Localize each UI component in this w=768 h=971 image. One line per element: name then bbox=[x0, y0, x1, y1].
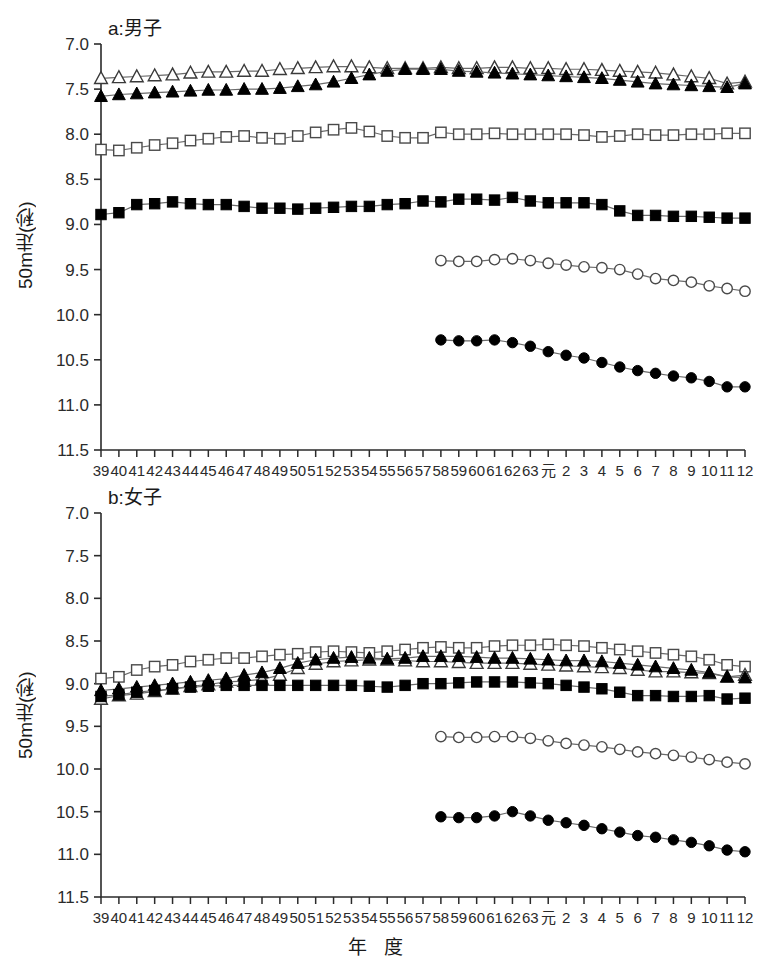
marker-square-open bbox=[650, 648, 660, 658]
marker-circle-filled bbox=[507, 806, 517, 816]
marker-square-filled bbox=[668, 691, 678, 701]
marker-square-open bbox=[203, 655, 213, 665]
marker-triangle-filled bbox=[578, 654, 591, 666]
marker-square-filled bbox=[328, 202, 338, 212]
marker-square-open bbox=[436, 127, 446, 137]
x-tick-label: 40 bbox=[111, 909, 128, 926]
marker-square-filled bbox=[310, 203, 320, 213]
marker-square-open bbox=[400, 133, 410, 143]
marker-square-filled bbox=[185, 682, 195, 692]
y-tick-label: 8.5 bbox=[65, 632, 89, 651]
marker-square-open bbox=[96, 673, 106, 683]
marker-square-filled bbox=[632, 690, 642, 700]
x-tick-label: 59 bbox=[450, 909, 467, 926]
marker-square-filled bbox=[239, 201, 249, 211]
marker-circle-filled bbox=[489, 335, 499, 345]
marker-circle-open bbox=[686, 277, 696, 287]
marker-circle-filled bbox=[454, 812, 464, 822]
x-tick-label: 5 bbox=[616, 909, 624, 926]
marker-circle-filled bbox=[722, 382, 732, 392]
x-tick-label: 2 bbox=[562, 909, 570, 926]
marker-circle-open bbox=[686, 752, 696, 762]
marker-circle-open bbox=[436, 255, 446, 265]
marker-circle-filled bbox=[489, 811, 499, 821]
marker-square-filled bbox=[704, 212, 714, 222]
marker-circle-filled bbox=[471, 336, 481, 346]
marker-circle-open bbox=[650, 748, 660, 758]
marker-circle-filled bbox=[454, 336, 464, 346]
marker-square-filled bbox=[436, 197, 446, 207]
marker-circle-open bbox=[579, 740, 589, 750]
marker-square-filled bbox=[328, 680, 338, 690]
series-line bbox=[441, 737, 745, 764]
marker-square-filled bbox=[96, 691, 106, 701]
marker-circle-open bbox=[454, 256, 464, 266]
marker-square-open bbox=[257, 133, 267, 143]
y-tick-label: 8.0 bbox=[65, 125, 89, 144]
marker-square-filled bbox=[579, 682, 589, 692]
marker-square-open bbox=[203, 134, 213, 144]
marker-circle-open bbox=[615, 744, 625, 754]
marker-square-open bbox=[132, 143, 142, 153]
marker-circle-filled bbox=[668, 371, 678, 381]
marker-circle-open bbox=[722, 283, 732, 293]
marker-square-filled bbox=[632, 210, 642, 220]
marker-circle-filled bbox=[561, 350, 571, 360]
marker-square-filled bbox=[436, 678, 446, 688]
marker-square-open bbox=[364, 126, 374, 136]
marker-circle-open bbox=[454, 732, 464, 742]
marker-triangle-filled bbox=[238, 83, 251, 95]
marker-square-filled bbox=[615, 687, 625, 697]
marker-circle-filled bbox=[686, 837, 696, 847]
marker-square-filled bbox=[185, 198, 195, 208]
x-tick-label: 10 bbox=[701, 909, 718, 926]
x-tick-label: 61 bbox=[486, 909, 503, 926]
marker-circle-open bbox=[489, 254, 499, 264]
x-tick-label: 48 bbox=[254, 909, 271, 926]
marker-circle-open bbox=[561, 260, 571, 270]
marker-square-open bbox=[632, 646, 642, 656]
y-axis-ticks: 7.07.58.08.59.09.510.010.511.011.5 bbox=[56, 504, 101, 907]
x-tick-label: 57 bbox=[415, 909, 432, 926]
marker-square-open bbox=[668, 649, 678, 659]
marker-square-open bbox=[167, 138, 177, 148]
marker-square-filled bbox=[543, 678, 553, 688]
marker-circle-filled bbox=[525, 341, 535, 351]
marker-square-open bbox=[418, 133, 428, 143]
y-tick-label: 9.5 bbox=[65, 261, 89, 280]
marker-square-open bbox=[597, 132, 607, 142]
panel-b-plot: 7.07.58.08.59.09.510.010.511.011.5394041… bbox=[0, 469, 768, 939]
marker-circle-filled bbox=[579, 820, 589, 830]
marker-circle-filled bbox=[722, 845, 732, 855]
marker-circle-open bbox=[471, 732, 481, 742]
marker-square-open bbox=[579, 641, 589, 651]
marker-circle-filled bbox=[615, 827, 625, 837]
marker-circle-filled bbox=[668, 835, 678, 845]
series-filled-circle bbox=[436, 335, 751, 392]
marker-square-filled bbox=[454, 678, 464, 688]
marker-circle-open bbox=[489, 731, 499, 741]
marker-circle-open bbox=[471, 256, 481, 266]
marker-circle-open bbox=[740, 759, 750, 769]
marker-square-filled bbox=[96, 209, 106, 219]
axis-lines bbox=[101, 44, 745, 450]
x-tick-label: 41 bbox=[128, 909, 145, 926]
marker-square-open bbox=[686, 129, 696, 139]
marker-square-open bbox=[543, 639, 553, 649]
marker-square-open bbox=[167, 660, 177, 670]
marker-circle-filled bbox=[579, 353, 589, 363]
marker-square-open bbox=[543, 129, 553, 139]
marker-square-open bbox=[114, 672, 124, 682]
marker-square-open bbox=[239, 653, 249, 663]
marker-triangle-open bbox=[327, 60, 340, 72]
marker-square-filled bbox=[668, 211, 678, 221]
marker-square-open bbox=[257, 651, 267, 661]
marker-triangle-filled bbox=[506, 651, 519, 663]
marker-circle-filled bbox=[543, 346, 553, 356]
marker-square-filled bbox=[257, 680, 267, 690]
x-tick-label: 6 bbox=[633, 909, 641, 926]
marker-square-filled bbox=[418, 678, 428, 688]
x-tick-label: 46 bbox=[218, 909, 235, 926]
marker-square-filled bbox=[132, 687, 142, 697]
series-open-square bbox=[96, 123, 750, 156]
